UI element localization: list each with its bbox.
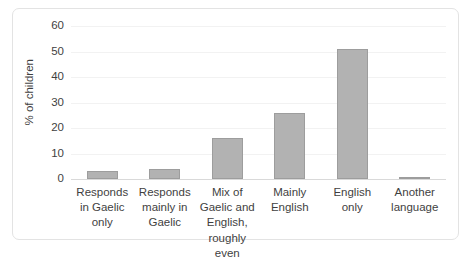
bar-series (71, 26, 446, 179)
bar-responds-mainly-in-gaelic[interactable] (149, 169, 180, 179)
bar-another-language[interactable] (399, 177, 430, 179)
bar-slot-5 (384, 26, 447, 179)
x-axis-category-labels: Responds in Gaelic only Responds mainly … (71, 185, 446, 261)
plot-area: 60 50 40 30 20 10 0 (71, 26, 446, 179)
bar-slot-3 (259, 26, 322, 179)
x-label-responds-mainly-in-gaelic: Responds mainly in Gaelic (134, 185, 197, 261)
bar-english-only[interactable] (337, 49, 368, 179)
y-tick-label-10: 10 (51, 148, 64, 160)
bar-slot-1 (134, 26, 197, 179)
gridline-0-baseline: 0 (71, 179, 446, 180)
y-tick-label-30: 30 (51, 97, 64, 109)
y-tick-label-60: 60 (51, 20, 64, 32)
y-tick-label-50: 50 (51, 46, 64, 58)
bar-slot-4 (321, 26, 384, 179)
bar-mainly-english[interactable] (274, 113, 305, 179)
bar-mix-of-gaelic-and-english[interactable] (212, 138, 243, 179)
y-tick-label-0: 0 (58, 173, 64, 185)
x-label-responds-in-gaelic-only: Responds in Gaelic only (71, 185, 134, 261)
y-tick-label-20: 20 (51, 122, 64, 134)
x-label-mainly-english: Mainly English (259, 185, 322, 261)
y-tick-label-40: 40 (51, 71, 64, 83)
bar-slot-2 (196, 26, 259, 179)
bar-slot-0 (71, 26, 134, 179)
x-label-english-only: English only (321, 185, 384, 261)
bar-responds-in-gaelic-only[interactable] (87, 171, 118, 179)
x-label-another-language: Another language (384, 185, 447, 261)
x-label-mix-of-gaelic-and-english: Mix of Gaelic and English, roughly even (196, 185, 259, 261)
y-axis-title: % of children (24, 59, 38, 125)
chart-frame: % of children 60 50 40 30 20 10 0 (12, 8, 459, 240)
